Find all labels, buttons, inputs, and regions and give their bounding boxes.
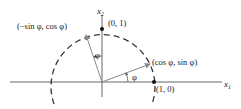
rotation-diagram: x1 x2 (0, 1) (1, 0) (cos φ, sin φ) (−sin… [0,0,241,109]
x2-axis-label: x2 [96,6,104,17]
label-rotated-e2: (−sin φ, cos φ) [17,21,67,31]
x1-axis-label: x1 [223,79,231,90]
angle-label-lower: φ [132,72,137,82]
angle-arc-lower [126,73,128,82]
label-e2: (0, 1) [108,18,127,28]
point-e2 [100,27,104,31]
label-e1: (1, 0) [156,84,175,94]
angle-label-upper: φ [95,50,100,60]
unit-circle-arc [51,35,155,104]
label-rotated-e1: (cos φ, sin φ) [152,57,197,67]
